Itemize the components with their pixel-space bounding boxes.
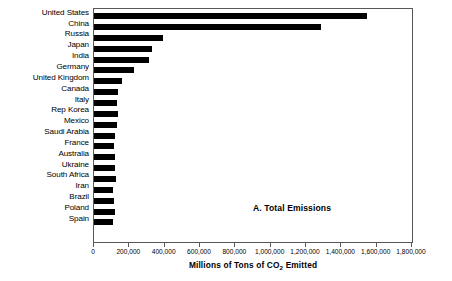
- bar: [94, 209, 115, 215]
- category-label: China: [0, 20, 89, 28]
- x-axis-tick-label: 200,000: [116, 248, 140, 255]
- category-label: Italy: [0, 96, 89, 104]
- category-label: Spain: [0, 215, 89, 223]
- x-axis-title-prefix: Millions of Tons of CO: [189, 260, 280, 270]
- category-label: Saudi Arabia: [0, 128, 89, 136]
- x-axis-tick-label: 1,200,000: [290, 248, 319, 255]
- panel-title: A. Total Emissions: [253, 203, 331, 213]
- x-axis-tick: [164, 243, 165, 247]
- category-label: France: [0, 139, 89, 147]
- category-label: Iran: [0, 182, 89, 190]
- bar: [94, 219, 113, 225]
- category-label: Ukraine: [0, 161, 89, 169]
- x-axis-tick-label: 1,000,000: [255, 248, 284, 255]
- category-label: Japan: [0, 41, 89, 49]
- bar: [94, 176, 116, 182]
- bar: [94, 122, 117, 128]
- bar: [94, 35, 163, 41]
- bar: [94, 57, 149, 63]
- x-axis-title: Millions of Tons of CO2 Emitted: [93, 260, 413, 270]
- bar: [94, 100, 117, 106]
- x-axis-tick-label: 1,600,000: [361, 248, 390, 255]
- bar: [94, 24, 321, 30]
- bar: [94, 111, 118, 117]
- category-label: India: [0, 52, 89, 60]
- category-label: Mexico: [0, 117, 89, 125]
- x-axis-tick: [234, 243, 235, 247]
- category-axis-labels: United StatesChinaRussiaJapanIndiaGerman…: [0, 8, 89, 237]
- category-label: Canada: [0, 85, 89, 93]
- bar: [94, 154, 115, 160]
- bar: [94, 198, 114, 204]
- bar-chart-figure: United StatesChinaRussiaJapanIndiaGerman…: [0, 0, 452, 281]
- category-label: South Africa: [0, 171, 89, 179]
- x-axis-tick-label: 800,000: [222, 248, 246, 255]
- category-label: Germany: [0, 63, 89, 71]
- x-axis-tick-label: 1,400,000: [326, 248, 355, 255]
- x-axis-tick: [93, 243, 94, 247]
- bar: [94, 89, 118, 95]
- category-label: Australia: [0, 150, 89, 158]
- x-axis-title-subscript: 2: [280, 264, 284, 271]
- bar: [94, 46, 152, 52]
- x-axis-tick-label: 1,800,000: [396, 248, 425, 255]
- bar: [94, 133, 115, 139]
- x-axis-tick: [340, 243, 341, 247]
- x-axis-tick: [199, 243, 200, 247]
- x-axis-title-suffix: Emitted: [283, 260, 317, 270]
- category-label: Brazil: [0, 193, 89, 201]
- bar: [94, 187, 113, 193]
- category-label: Poland: [0, 204, 89, 212]
- x-axis-tick-label: 600,000: [187, 248, 211, 255]
- bar: [94, 165, 115, 171]
- x-axis-tick-label: 0: [91, 248, 95, 255]
- bar: [94, 143, 114, 149]
- x-axis-tick-label: 400,000: [152, 248, 176, 255]
- category-label: Rep Korea: [0, 106, 89, 114]
- bar: [94, 67, 134, 73]
- bar: [94, 13, 367, 19]
- bar: [94, 78, 122, 84]
- x-axis-tick: [305, 243, 306, 247]
- category-label: United Kingdom: [0, 74, 89, 82]
- x-axis-tick: [376, 243, 377, 247]
- category-label: Russia: [0, 30, 89, 38]
- x-axis-tick: [411, 243, 412, 247]
- x-axis-tick: [128, 243, 129, 247]
- category-label: United States: [0, 9, 89, 17]
- x-axis-tick: [270, 243, 271, 247]
